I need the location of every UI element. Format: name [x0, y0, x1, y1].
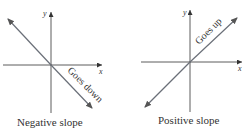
y-axis-label: y — [42, 9, 47, 18]
goes-up-label: Goes up — [193, 15, 224, 46]
negative-slope-panel: y x Goes down — [3, 9, 105, 113]
x-axis-label: x — [237, 64, 242, 73]
y-axis-label: y — [182, 8, 187, 17]
positive-slope-panel: y x Goes up — [141, 8, 242, 112]
negative-slope-caption: Negative slope — [17, 116, 83, 128]
positive-slope-caption: Positive slope — [158, 114, 219, 126]
negative-slope-line — [8, 19, 51, 65]
x-axis-label: x — [98, 67, 103, 76]
